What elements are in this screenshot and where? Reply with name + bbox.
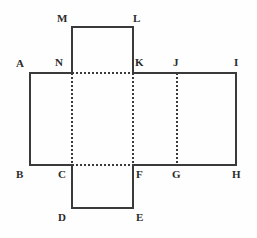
vertex-label-d: D: [58, 212, 66, 223]
vertex-label-l: L: [133, 13, 140, 24]
cube-net-figure: ABCDEFGHIJKLMN: [0, 0, 257, 238]
vertex-label-k: K: [135, 57, 144, 68]
dashed-edge-group: [72, 73, 177, 165]
vertex-label-n: N: [55, 57, 63, 68]
vertex-label-b: B: [16, 169, 23, 180]
vertex-label-a: A: [16, 58, 24, 69]
net-drawing-canvas: [0, 0, 257, 238]
vertex-label-j: J: [173, 57, 179, 68]
vertex-label-i: I: [234, 57, 238, 68]
vertex-label-m: M: [57, 13, 67, 24]
vertex-label-f: F: [136, 169, 143, 180]
vertex-label-c: C: [58, 169, 66, 180]
vertex-label-g: G: [172, 169, 181, 180]
vertex-label-h: H: [232, 169, 241, 180]
vertex-label-e: E: [136, 212, 143, 223]
